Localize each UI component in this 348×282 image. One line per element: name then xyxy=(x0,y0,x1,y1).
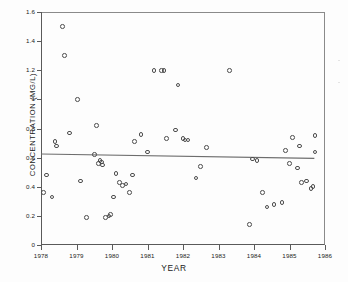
scan-artifact xyxy=(338,60,340,61)
y-tick-label-2: 0.4 xyxy=(0,184,35,190)
plot-frame xyxy=(41,12,325,245)
x-tick-6 xyxy=(254,245,255,250)
y-tick-label-4: 0.8 xyxy=(0,126,35,132)
x-tick-5 xyxy=(219,245,220,250)
x-tick-4 xyxy=(183,245,184,250)
y-tick-4 xyxy=(37,129,42,130)
x-tick-0 xyxy=(41,245,42,250)
x-tick-label-8: 1986 xyxy=(310,252,340,259)
x-tick-1 xyxy=(77,245,78,250)
y-tick-label-7: 1.4 xyxy=(0,38,35,44)
x-tick-3 xyxy=(148,245,149,250)
y-tick-5 xyxy=(37,99,42,100)
x-tick-7 xyxy=(290,245,291,250)
y-tick-1 xyxy=(37,216,42,217)
x-tick-label-4: 1982 xyxy=(168,252,198,259)
x-tick-label-3: 1981 xyxy=(133,252,163,259)
x-tick-2 xyxy=(112,245,113,250)
x-tick-label-6: 1984 xyxy=(239,252,269,259)
y-tick-label-6: 1.2 xyxy=(0,67,35,73)
scatter-chart-figure: CONCENTRATION (MG/L) 0 0.2 0.4 0.6 0.8 1… xyxy=(0,0,348,282)
x-tick-label-2: 1980 xyxy=(97,252,127,259)
y-tick-8 xyxy=(37,12,42,13)
y-tick-label-0: 0 xyxy=(0,242,35,248)
scan-artifact xyxy=(338,82,340,83)
y-tick-label-1: 0.2 xyxy=(0,213,35,219)
y-tick-label-8: 1.6 xyxy=(0,9,35,15)
x-tick-label-0: 1978 xyxy=(26,252,56,259)
y-tick-label-3: 0.6 xyxy=(0,155,35,161)
y-tick-3 xyxy=(37,158,42,159)
x-tick-label-1: 1979 xyxy=(62,252,92,259)
y-tick-7 xyxy=(37,41,42,42)
y-tick-label-5: 1 xyxy=(0,96,35,102)
x-tick-label-5: 1983 xyxy=(204,252,234,259)
y-tick-2 xyxy=(37,187,42,188)
x-axis-title: YEAR xyxy=(0,263,348,273)
y-tick-6 xyxy=(37,70,42,71)
x-tick-8 xyxy=(325,245,326,250)
x-tick-label-7: 1985 xyxy=(275,252,305,259)
